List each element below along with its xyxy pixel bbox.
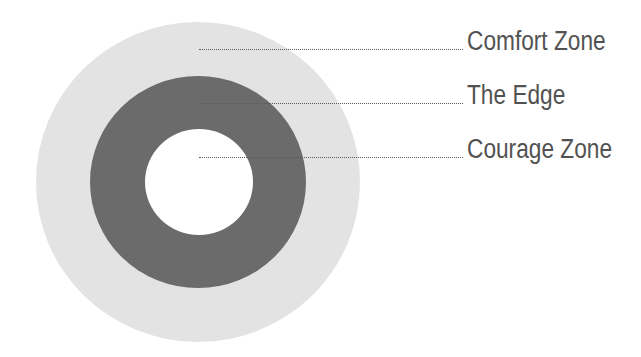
the-edge-label: The Edge bbox=[467, 82, 565, 109]
courage-zone-leader-line bbox=[199, 157, 463, 158]
comfort-zone-leader-line bbox=[199, 49, 463, 50]
courage-zone-label: Courage Zone bbox=[467, 136, 612, 163]
courage-zone-circle bbox=[145, 129, 253, 235]
comfort-zone-label: Comfort Zone bbox=[467, 28, 606, 55]
the-edge-leader-line bbox=[199, 103, 463, 104]
